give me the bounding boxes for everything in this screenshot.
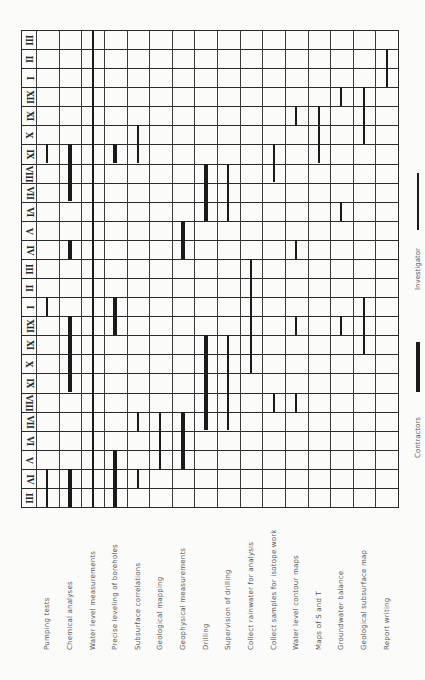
grid-col-line	[81, 30, 82, 507]
activity-bar-investigator	[295, 106, 297, 125]
month-label: X	[22, 125, 37, 144]
activity-label: Supervision of drilling	[224, 569, 232, 650]
activity-label: Report writing	[383, 598, 391, 650]
month-label: V	[22, 450, 37, 469]
activity-bar-investigator	[92, 30, 94, 507]
grid-row-line	[21, 431, 398, 432]
grid-row-line	[21, 393, 398, 394]
activity-bar-contractors	[68, 144, 72, 201]
activity-bar-investigator	[227, 335, 229, 430]
grid-col-line	[172, 30, 173, 507]
activity-label: Chemical analyses	[66, 581, 74, 650]
month-label: XII	[22, 316, 37, 335]
grid-row-line	[21, 373, 398, 374]
grid-row-line	[21, 183, 398, 184]
activity-bar-investigator	[363, 87, 365, 144]
grid-row-line	[21, 144, 398, 145]
grid-row-line	[21, 68, 398, 69]
activity-bar-contractors	[113, 144, 117, 163]
month-label: VII	[22, 412, 37, 431]
activity-label: Precise leveling of boreholes	[111, 544, 119, 650]
month-label: VIII	[22, 393, 37, 412]
grid-row-line	[21, 469, 398, 470]
activity-bar-contractors	[204, 335, 208, 430]
activity-bar-investigator	[137, 125, 139, 163]
grid-col-line	[127, 30, 128, 507]
grid-row-line	[21, 450, 398, 451]
activity-bar-investigator	[340, 202, 342, 221]
grid-row-line	[21, 106, 398, 107]
grid-row-line	[21, 297, 398, 298]
legend-contractors-label: Contractors	[414, 417, 422, 458]
month-label: V	[22, 221, 37, 240]
grid-col-line	[330, 30, 331, 507]
gantt-chart: IIIIIIXIIXIXIXVIIIVIIVIVIVIIIIIIXIIXIXIX…	[0, 0, 425, 680]
activity-bar-investigator	[137, 412, 139, 431]
legend-investigator-label: Investigator	[414, 248, 422, 290]
month-label: I	[22, 297, 37, 316]
month-label: IV	[22, 469, 37, 488]
activity-bar-investigator	[386, 49, 388, 87]
month-label: VIII	[22, 164, 37, 183]
month-label: X	[22, 354, 37, 373]
activity-label: Geological mapping	[156, 577, 164, 650]
activity-bar-investigator	[295, 316, 297, 335]
grid-col-line	[59, 30, 60, 507]
grid-row-line	[21, 335, 398, 336]
grid-col-line	[375, 30, 376, 507]
activity-label: Water level contour maps	[292, 555, 300, 650]
legend-contractors-bar	[416, 342, 420, 392]
activity-label: Geological subsurface map	[360, 550, 368, 650]
activity-bar-contractors	[68, 316, 72, 392]
grid-row-line	[21, 49, 398, 50]
grid-col-line	[149, 30, 150, 507]
legend-investigator-line	[417, 173, 419, 230]
activity-label: Geophysical measurements	[179, 548, 187, 650]
grid-row-line	[21, 221, 398, 222]
grid-col-line	[217, 30, 218, 507]
grid-row-line	[21, 412, 398, 413]
activity-bar-contractors	[68, 240, 72, 259]
activity-bar-investigator	[295, 240, 297, 259]
grid-row-line	[21, 164, 398, 165]
grid-col-line	[353, 30, 354, 507]
activity-bar-investigator	[250, 259, 252, 373]
grid-row-line	[21, 488, 398, 489]
month-label: XI	[22, 106, 37, 125]
activity-label: Maps of S and T	[315, 591, 323, 650]
month-label: VI	[22, 431, 37, 450]
grid-row-line	[21, 278, 398, 279]
month-label: I	[22, 68, 37, 87]
grid-row-line	[21, 125, 398, 126]
grid-row-line	[21, 259, 398, 260]
activity-label: Water level measurements	[89, 551, 97, 650]
activity-bar-investigator	[46, 144, 48, 163]
activity-bar-investigator	[318, 106, 320, 163]
grid-col-line	[285, 30, 286, 507]
activity-label: Pumping tests	[43, 597, 51, 650]
grid-row-line	[21, 240, 398, 241]
activity-bar-investigator	[295, 393, 297, 412]
activity-label: Drilling	[202, 623, 210, 650]
month-label: IV	[22, 240, 37, 259]
activity-label: Collect samples for isotope work	[270, 529, 278, 650]
activity-bar-investigator	[340, 87, 342, 106]
activity-bar-investigator	[363, 297, 365, 354]
activity-bar-investigator	[46, 469, 48, 507]
activity-bar-contractors	[113, 297, 117, 335]
activity-bar-contractors	[181, 221, 185, 259]
grid-row-line	[21, 354, 398, 355]
grid-col-line	[194, 30, 195, 507]
activity-bar-contractors	[68, 469, 72, 507]
month-label: III	[22, 488, 37, 507]
activity-bar-investigator	[227, 164, 229, 221]
activity-bar-investigator	[273, 393, 275, 412]
activity-label: Groundwater balance	[337, 571, 345, 650]
month-label: VII	[22, 183, 37, 202]
activity-bar-investigator	[137, 469, 139, 488]
grid-col-line	[262, 30, 263, 507]
activity-label: Subsurface correlations	[134, 563, 142, 650]
month-label: XII	[22, 87, 37, 106]
activity-bar-contractors	[181, 412, 185, 469]
activity-bar-investigator	[273, 144, 275, 182]
